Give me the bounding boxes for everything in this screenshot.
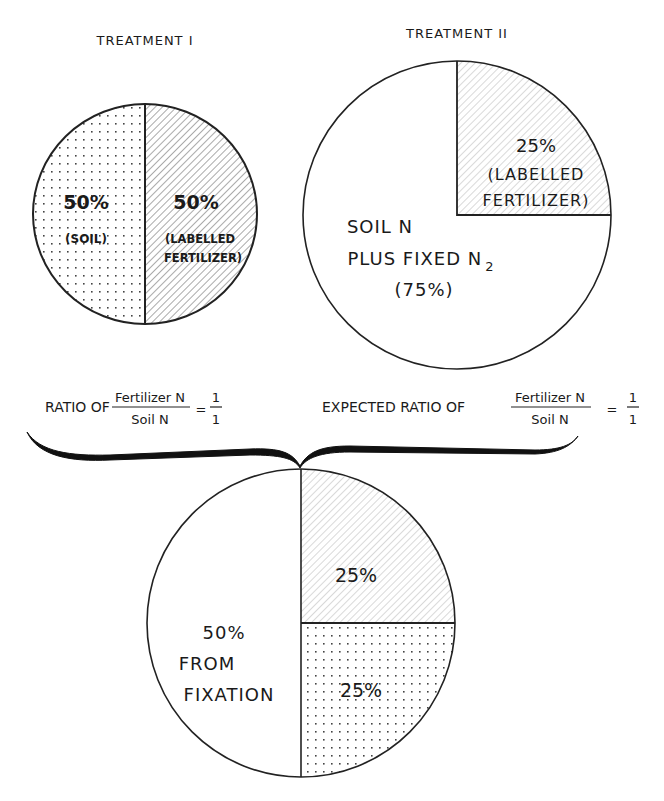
fixation-label-1: FROM — [179, 653, 236, 674]
fertilizer-label-1: (LABELLED — [488, 165, 585, 184]
soil-segment — [33, 104, 145, 324]
ratio-left-equals: = — [196, 402, 207, 417]
result-pie: 25% 25% 50% FROM FIXATION — [147, 469, 455, 777]
soil-fixed-line-1: SOIL N — [347, 216, 413, 237]
fixation-label-2: FIXATION — [184, 684, 275, 705]
ratio-right-value-den: 1 — [629, 412, 637, 427]
nitrogen-fixation-diagram: TREATMENT I 50% (SOIL) 50% (LABELLED FER… — [0, 0, 664, 801]
ratio-left-denominator: Soil N — [131, 412, 168, 427]
treatment-2-title: TREATMENT II — [405, 26, 508, 41]
ratio-left-prefix: RATIO OF — [45, 399, 110, 415]
fertilizer-segment — [301, 469, 455, 623]
ratio-right-numerator: Fertilizer N — [515, 390, 585, 405]
soil-label: (SOIL) — [65, 232, 107, 246]
treatment-1-title: TREATMENT I — [95, 33, 193, 48]
ratio-right-value-num: 1 — [629, 390, 637, 405]
ratio-left: RATIO OF Fertilizer N Soil N = 1 1 — [45, 390, 222, 427]
fertilizer-pct: 25% — [335, 564, 377, 586]
ratio-right: EXPECTED RATIO OF Fertilizer N Soil N = … — [322, 390, 639, 427]
fertilizer-pct: 50% — [173, 191, 218, 213]
ratio-right-prefix: EXPECTED RATIO OF — [322, 399, 465, 415]
fertilizer-label-2: FERTILIZER) — [164, 251, 242, 265]
ratio-left-value-den: 1 — [212, 412, 220, 427]
soil-pct: 25% — [340, 679, 382, 701]
ratio-right-denominator: Soil N — [531, 412, 568, 427]
soil-fixed-pct: (75%) — [394, 279, 453, 300]
ratio-left-numerator: Fertilizer N — [115, 390, 185, 405]
fixation-pct: 50% — [202, 622, 245, 643]
fertilizer-pct: 25% — [516, 135, 556, 156]
soil-pct: 50% — [63, 191, 108, 213]
ratio-left-value-num: 1 — [212, 390, 220, 405]
ratio-right-equals: = — [607, 402, 618, 417]
treatment-2-pie: TREATMENT II 25% (LABELLED FERTILIZER) S… — [303, 26, 611, 369]
fertilizer-label-2: FERTILIZER) — [483, 191, 590, 210]
fertilizer-segment — [145, 104, 257, 324]
curly-brace — [27, 432, 578, 468]
fertilizer-label-1: (LABELLED — [165, 232, 235, 246]
treatment-1-pie: TREATMENT I 50% (SOIL) 50% (LABELLED FER… — [33, 33, 257, 324]
